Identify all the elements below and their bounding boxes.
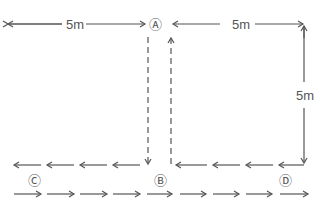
dimension-left-top: 5m xyxy=(8,17,145,32)
path-diagram: 5m Ⓐ 5m 5m Ⓒ Ⓑ Ⓓ xyxy=(0,0,329,212)
dimension-label-right-vertical: 5m xyxy=(296,88,314,103)
point-d-label: Ⓓ xyxy=(279,173,292,188)
dimension-right-top: 5m xyxy=(173,17,303,32)
dimension-label-right-top: 5m xyxy=(232,17,250,32)
dimension-label-left-top: 5m xyxy=(66,17,84,32)
diagram-canvas: 5m Ⓐ 5m 5m Ⓒ Ⓑ Ⓓ xyxy=(0,0,329,212)
point-c-label: Ⓒ xyxy=(28,173,41,188)
point-b-label: Ⓑ xyxy=(154,173,167,188)
point-a-label: Ⓐ xyxy=(149,17,162,32)
dimension-right-vertical: 5m xyxy=(296,26,314,163)
